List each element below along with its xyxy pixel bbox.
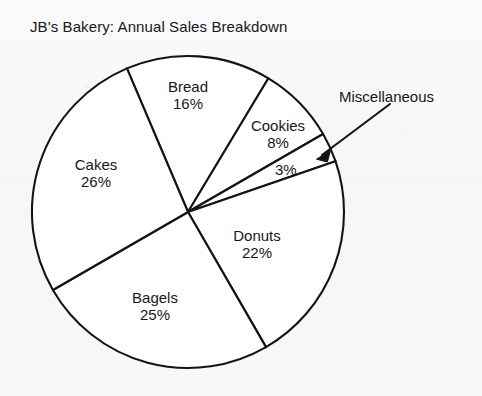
pie-label-donuts: Donuts 22% (209, 227, 305, 261)
pie-label-donuts-value: 22% (209, 244, 305, 261)
pie-label-cakes: Cakes 26% (52, 156, 140, 190)
pie-label-cookies-value: 8% (233, 134, 323, 151)
pie-label-cookies-name: Cookies (251, 117, 305, 134)
pie-label-miscellaneous-value: 3% (275, 161, 297, 178)
pie-callout-label-miscellaneous: Miscellaneous (339, 88, 434, 105)
pie-label-cakes-name: Cakes (75, 156, 118, 173)
pie-label-bread-value: 16% (147, 95, 229, 112)
pie-chart-graphic (0, 0, 482, 396)
pie-label-bread: Bread 16% (147, 78, 229, 112)
chart-canvas: JB's Bakery: Annual Sales Breakdown Brea… (0, 0, 482, 396)
pie-label-bagels: Bagels 25% (109, 289, 201, 323)
pie-label-bread-name: Bread (168, 78, 208, 95)
pie-label-bagels-value: 25% (109, 306, 201, 323)
callout-leader-line (317, 104, 391, 162)
pie-label-cookies: Cookies 8% (233, 117, 323, 151)
pie-label-donuts-name: Donuts (233, 227, 281, 244)
pie-label-cakes-value: 26% (52, 173, 140, 190)
pie-label-bagels-name: Bagels (132, 289, 178, 306)
